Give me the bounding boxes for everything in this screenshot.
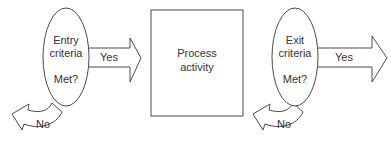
process-label-line1: Process [177, 47, 217, 59]
entry-yes-label: Yes [100, 51, 118, 63]
entry-no-arrow: No [12, 103, 62, 130]
exit-question: Met? [283, 73, 307, 85]
entry-label-line1: Entry [53, 34, 79, 46]
exit-label-line1: Exit [286, 34, 304, 46]
exit-no-label: No [277, 118, 291, 130]
exit-no-arrow: No [253, 103, 303, 130]
entry-label-line2: criteria [49, 47, 83, 59]
entry-criteria-decision: Entry criteria Met? [43, 8, 89, 106]
process-activity-box: Process activity [151, 10, 243, 116]
exit-criteria-decision: Exit criteria Met? [272, 8, 318, 106]
exit-yes-arrow: Yes [316, 36, 387, 82]
exit-label-line2: criteria [278, 47, 312, 59]
entry-exit-criteria-diagram: No Yes Entry criteria Met? Process activ… [0, 0, 391, 144]
exit-yes-label: Yes [335, 51, 353, 63]
process-label-line2: activity [180, 61, 214, 73]
entry-no-label: No [36, 118, 50, 130]
entry-question: Met? [54, 73, 78, 85]
entry-yes-arrow: Yes [86, 38, 141, 82]
